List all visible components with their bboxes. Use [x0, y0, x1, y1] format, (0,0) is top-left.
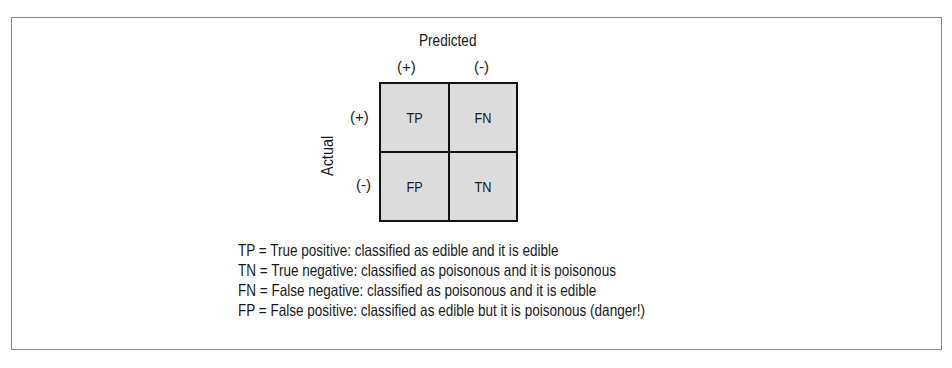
legend-item-tn: TN = True negative: classified as poison… — [238, 260, 645, 280]
legend-item-tp: TP = True positive: classified as edible… — [238, 240, 645, 260]
column-label-positive: (+) — [397, 58, 416, 75]
predicted-axis-label: Predicted — [419, 32, 476, 50]
cell-label: TN — [474, 178, 491, 195]
legend-item-fp: FP = False positive: classified as edibl… — [238, 300, 645, 320]
confusion-matrix: TP FN FP TN — [379, 82, 518, 222]
legend-item-fn: FN = False negative: classified as poiso… — [238, 280, 645, 300]
cell-false-positive: FP — [381, 152, 449, 220]
row-label-positive: (+) — [350, 108, 369, 125]
cell-true-negative: TN — [449, 152, 517, 220]
cell-label: FP — [406, 178, 422, 195]
cell-label: FN — [474, 109, 491, 126]
row-label-negative: (-) — [356, 176, 371, 193]
cell-label: TP — [406, 109, 422, 126]
cell-false-negative: FN — [449, 84, 517, 152]
actual-axis-label: Actual — [318, 136, 338, 176]
legend: TP = True positive: classified as edible… — [238, 240, 734, 320]
column-label-negative: (-) — [474, 58, 489, 75]
cell-true-positive: TP — [381, 84, 449, 152]
